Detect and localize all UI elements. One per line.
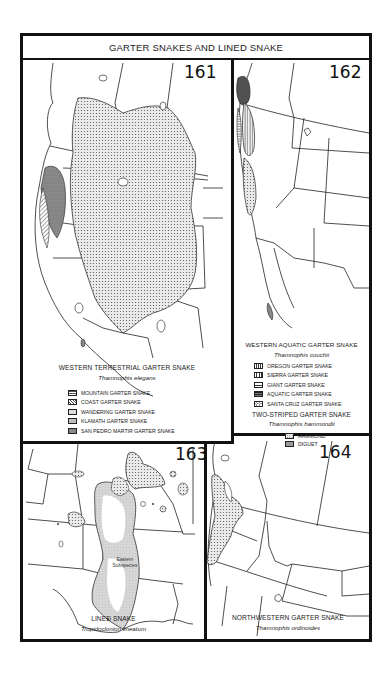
map-161-panel: 161 WESTERN TERRESTRIAL GARTER SNAKE Tha…: [23, 58, 234, 444]
oregon-swatch-icon: [254, 363, 263, 369]
map-164-caption: NORTHWESTERN GARTER SNAKE Thamnophis ord…: [207, 614, 369, 631]
legend-label: KLAMATH GARTER SNAKE: [81, 418, 147, 424]
legend-label: AQUATIC GARTER SNAKE: [267, 391, 332, 397]
legend-label: COAST GARTER SNAKE: [81, 399, 141, 405]
aquatic-swatch-icon: [254, 391, 263, 397]
map-163-common-name: LINED SNAKE: [23, 615, 204, 622]
map-163-panel: 163 Eastern Subspecies LINED SNAKE Tropi…: [23, 444, 207, 639]
legend-label: SANTA CRUZ GARTER SNAKE: [267, 401, 341, 407]
map-162-number: 162: [329, 62, 361, 82]
coast-swatch-icon: [68, 399, 77, 405]
map-164-number: 164: [319, 442, 351, 462]
legend-item: OREGON GARTER SNAKE: [254, 361, 341, 371]
legend-item: SAN PEDRO MARTIR GARTER SNAKE: [68, 426, 175, 436]
map-161-legend: MOUNTAIN GARTER SNAKE COAST GARTER SNAKE…: [68, 388, 175, 436]
mountain-swatch-icon: [68, 390, 77, 396]
plate-title: GARTER SNAKES AND LINED SNAKE: [23, 36, 369, 60]
legend-item: GIANT GARTER SNAKE: [254, 380, 341, 390]
map-164-common-name: NORTHWESTERN GARTER SNAKE: [207, 614, 369, 621]
legend-item: KLAMATH GARTER SNAKE: [68, 417, 175, 427]
legend-item: WANDERING GARTER SNAKE: [68, 407, 175, 417]
legend-label: GIANT GARTER SNAKE: [267, 382, 325, 388]
legend-label: OREGON GARTER SNAKE: [267, 363, 332, 369]
map-162-scientific-name: Thamnophis couchii: [234, 351, 369, 358]
sierra-swatch-icon: [254, 372, 263, 378]
legend-label: SIERRA GARTER SNAKE: [267, 372, 328, 378]
map-163-caption: LINED SNAKE Tropidoclonion lineatum: [23, 615, 204, 632]
map-plate-frame: GARTER SNAKES AND LINED SNAKE: [20, 33, 372, 642]
eastern-subspecies-label: Eastern Subspecies: [105, 557, 145, 569]
map-162-panel: 162 WESTERN AQUATIC GARTER SNAKE Thamnop…: [234, 58, 369, 436]
wandering-swatch-icon: [68, 409, 77, 415]
map-164-range-map: [207, 436, 369, 639]
legend-label: WANDERING GARTER SNAKE: [81, 409, 155, 415]
giant-swatch-icon: [254, 382, 263, 388]
map-162-secondary-caption: TWO-STRIPED GARTER SNAKE Thamnophis hamm…: [234, 411, 369, 427]
legend-item: SIERRA GARTER SNAKE: [254, 371, 341, 381]
legend-label: MOUNTAIN GARTER SNAKE: [81, 390, 150, 396]
map-163-number: 163: [175, 444, 207, 464]
map-161-range-map: [23, 58, 231, 441]
map-161-scientific-name: Thamnophis elegans: [23, 374, 231, 381]
map-161-caption: WESTERN TERRESTRIAL GARTER SNAKE Thamnop…: [23, 364, 231, 381]
santa-cruz-swatch-icon: [254, 401, 263, 407]
klamath-swatch-icon: [68, 418, 77, 424]
map-161-number: 161: [184, 62, 216, 82]
map-162-caption: WESTERN AQUATIC GARTER SNAKE Thamnophis …: [234, 341, 369, 358]
legend-item: SANTA CRUZ GARTER SNAKE: [254, 399, 341, 409]
map-162-secondary-common-name: TWO-STRIPED GARTER SNAKE: [234, 411, 369, 418]
map-162-common-name: WESTERN AQUATIC GARTER SNAKE: [234, 341, 369, 348]
map-163-scientific-name: Tropidoclonion lineatum: [23, 625, 204, 632]
map-164-scientific-name: Thamnophis ordinoides: [207, 624, 369, 631]
legend-item: AQUATIC GARTER SNAKE: [254, 390, 341, 400]
map-162-legend: OREGON GARTER SNAKE SIERRA GARTER SNAKE …: [254, 361, 341, 409]
map-163-range-map: [23, 444, 204, 639]
legend-item: COAST GARTER SNAKE: [68, 398, 175, 408]
legend-label: SAN PEDRO MARTIR GARTER SNAKE: [81, 428, 175, 434]
map-164-panel: 164 NORTHWESTERN GARTER SNAKE Thamnophis…: [207, 436, 369, 639]
map-161-common-name: WESTERN TERRESTRIAL GARTER SNAKE: [23, 364, 231, 371]
map-162-secondary-scientific-name: Thamnophis hammondii: [234, 420, 369, 427]
san-pedro-swatch-icon: [68, 428, 77, 434]
legend-item: MOUNTAIN GARTER SNAKE: [68, 388, 175, 398]
